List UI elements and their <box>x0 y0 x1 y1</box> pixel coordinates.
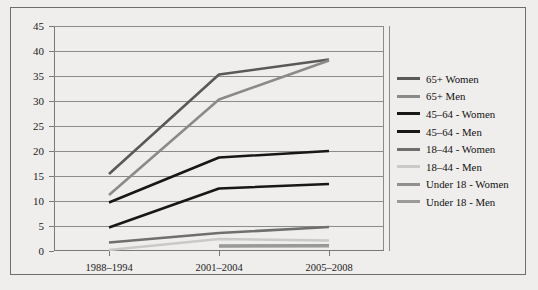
x-axis-tick-mark <box>219 251 220 256</box>
y-axis-tick-label: 45 <box>14 20 44 32</box>
y-axis-tick-label: 10 <box>14 195 44 207</box>
y-axis-tick-label: 25 <box>14 120 44 132</box>
x-axis-tick-label: 1988–1994 <box>85 262 132 273</box>
x-axis-tick-mark <box>329 251 330 256</box>
y-axis-tick-label: 40 <box>14 45 44 57</box>
legend-swatch-icon <box>397 165 420 168</box>
legend-label: 65+ Women <box>426 73 479 85</box>
legend-label: 65+ Men <box>426 90 465 102</box>
series-line <box>109 61 329 196</box>
legend-label: Under 18 - Men <box>426 196 495 208</box>
legend-swatch-icon <box>397 200 420 203</box>
legend-item[interactable]: 65+ Women <box>397 70 537 88</box>
legend-label: 18–44 - Women <box>426 143 495 155</box>
legend-item[interactable]: 45–64 - Women <box>397 105 537 123</box>
legend-label: 45–64 - Women <box>426 108 495 120</box>
y-axis-tick-mark <box>49 251 54 252</box>
legend-swatch-icon <box>397 77 420 80</box>
legend-item[interactable]: 18–44 - Men <box>397 158 537 176</box>
chart-legend: 65+ Women65+ Men45–64 - Women45–64 - Men… <box>397 70 537 211</box>
series-line <box>109 151 329 203</box>
x-axis-tick-mark <box>109 251 110 256</box>
legend-item[interactable]: Under 18 - Women <box>397 176 537 194</box>
y-axis-tick-label: 5 <box>14 220 44 232</box>
y-axis-tick-label: 35 <box>14 70 44 82</box>
series-line <box>109 184 329 228</box>
y-axis-tick-label: 20 <box>14 145 44 157</box>
legend-item[interactable]: 65+ Men <box>397 88 537 106</box>
legend-swatch-icon <box>397 183 420 186</box>
legend-item[interactable]: 18–44 - Women <box>397 140 537 158</box>
legend-label: Under 18 - Women <box>426 178 509 190</box>
legend-item[interactable]: Under 18 - Men <box>397 193 537 211</box>
legend-divider <box>389 26 390 251</box>
legend-swatch-icon <box>397 130 420 133</box>
y-axis-tick-label: 0 <box>14 245 44 257</box>
y-axis-tick-label: 15 <box>14 170 44 182</box>
legend-swatch-icon <box>397 95 420 98</box>
legend-swatch-icon <box>397 112 420 115</box>
legend-label: 18–44 - Men <box>426 161 482 173</box>
legend-item[interactable]: 45–64 - Men <box>397 123 537 141</box>
series-lines <box>54 26 384 251</box>
legend-label: 45–64 - Men <box>426 126 482 138</box>
legend-swatch-icon <box>397 148 420 151</box>
chart-frame: 051015202530354045 1988–19942001–2004200… <box>10 7 526 275</box>
x-axis-tick-label: 2001–2004 <box>195 262 242 273</box>
x-axis-tick-label: 2005–2008 <box>305 262 352 273</box>
plot-area: 051015202530354045 1988–19942001–2004200… <box>54 26 384 251</box>
y-axis-tick-label: 30 <box>14 95 44 107</box>
